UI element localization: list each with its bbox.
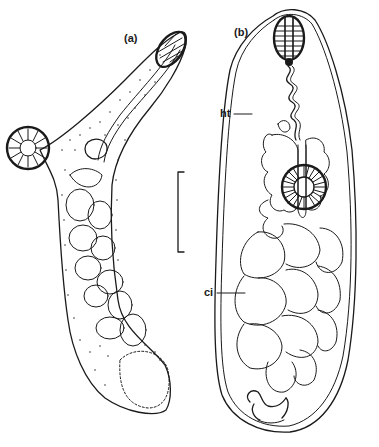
specimen-a	[7, 32, 186, 414]
specimen-b	[215, 10, 356, 433]
scale-bar	[178, 172, 184, 252]
ventral-sucker-a	[7, 127, 49, 169]
eggs-b	[235, 224, 343, 392]
annotation-ht: ht	[220, 108, 230, 119]
panel-label-b: (b)	[234, 27, 248, 38]
oral-sucker-b	[274, 16, 304, 66]
panel-label-a: (a)	[124, 33, 137, 44]
specimen-drawings	[0, 0, 379, 447]
annotation-ci: ci	[204, 287, 213, 298]
posterior-ducts-b	[248, 391, 289, 423]
ventral-sucker-b	[282, 165, 326, 209]
